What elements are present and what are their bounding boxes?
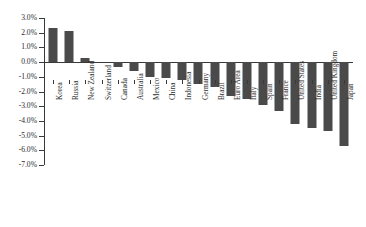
y-axis-tick-label: 0.0% xyxy=(0,58,37,66)
bar-chart: 3.0%2.0%1.0%0.0%-1.0%-2.0%-3.0%-4.0%-5.0… xyxy=(0,0,366,227)
x-axis-tick-label: Spain xyxy=(266,83,273,100)
y-axis-tick xyxy=(39,47,44,48)
x-axis-tick-label: China xyxy=(169,83,176,100)
x-axis-tick-label: India xyxy=(315,85,322,100)
x-axis-tick-label: Switzerland xyxy=(105,65,112,100)
y-axis-tick-label: -3.0% xyxy=(0,102,37,110)
y-axis-tick xyxy=(39,150,44,151)
x-axis-tick-label: Indonesia xyxy=(185,72,192,100)
y-axis-tick-label: -7.0% xyxy=(0,161,37,169)
y-axis-tick-label: -5.0% xyxy=(0,132,37,140)
y-axis-tick xyxy=(39,62,44,63)
x-axis-tick-label: Russia xyxy=(72,81,79,100)
x-axis-tick-label: United Kingdom xyxy=(331,51,338,100)
x-axis-tick-label: United States xyxy=(298,61,305,100)
x-axis-tick-label: Korea xyxy=(56,82,63,100)
x-axis-tick-label: Germany xyxy=(202,73,209,100)
y-axis-tick-label: -1.0% xyxy=(0,73,37,81)
x-axis-labels: KoreaRussiaNew ZealandSwitzerlandCanadaA… xyxy=(45,0,352,100)
y-axis-tick-label: -6.0% xyxy=(0,146,37,154)
x-axis-tick-label: France xyxy=(282,80,289,100)
y-axis-tick xyxy=(39,92,44,93)
y-axis-tick xyxy=(39,18,44,19)
y-axis-tick xyxy=(39,121,44,122)
y-axis-tick xyxy=(39,106,44,107)
y-axis-tick-label: -4.0% xyxy=(0,117,37,125)
y-axis-tick xyxy=(39,136,44,137)
x-axis-tick-label: New Zealand xyxy=(88,61,95,100)
x-axis-tick-label: Australia xyxy=(137,73,144,100)
x-axis-tick-label: Canada xyxy=(121,78,128,100)
y-axis-tick-label: 2.0% xyxy=(0,29,37,37)
y-axis-tick-label: 3.0% xyxy=(0,14,37,22)
y-axis-tick xyxy=(39,77,44,78)
x-axis-tick-label: Euro Area xyxy=(234,70,241,100)
y-axis-tick-label: 1.0% xyxy=(0,43,37,51)
x-axis-tick-label: Italy xyxy=(250,87,257,100)
y-axis-tick xyxy=(39,165,44,166)
x-axis-tick-label: Brazil xyxy=(218,82,225,100)
x-axis-tick-label: Mexico xyxy=(153,78,160,100)
y-axis-tick xyxy=(39,33,44,34)
y-axis-tick-label: -2.0% xyxy=(0,88,37,96)
x-axis-tick-label: Japan xyxy=(347,83,354,100)
